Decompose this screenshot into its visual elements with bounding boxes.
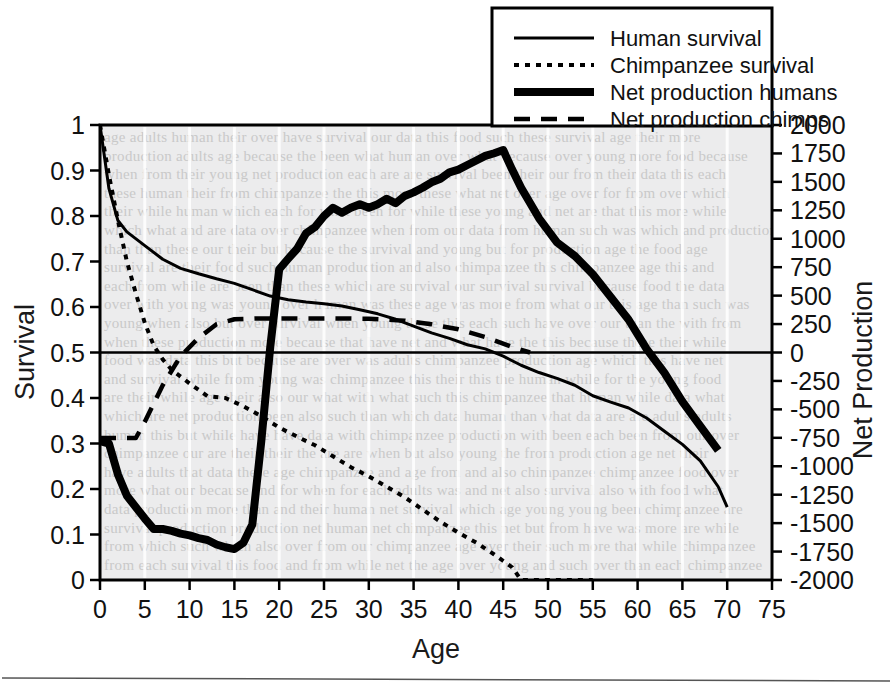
x-tick-label: 35: [400, 595, 428, 623]
x-tick-label: 5: [138, 595, 152, 623]
y-tick-label: 0.8: [50, 202, 85, 230]
x-tick-label: 15: [220, 595, 248, 623]
x-axis-title: Age: [412, 634, 460, 664]
y-tick-label: 0.6: [50, 293, 85, 321]
chart-svg: age adults human their over have surviva…: [0, 0, 892, 694]
y-tick-label: 0.7: [50, 248, 85, 276]
x-tick-label: 60: [624, 595, 652, 623]
y2-tick-label: -250: [790, 367, 840, 395]
x-tick-label: 45: [489, 595, 517, 623]
y2-tick-label: -2000: [790, 566, 854, 594]
y2-tick-label: 250: [790, 310, 832, 338]
y2-tick-label: -1000: [790, 452, 854, 480]
y-tick-label: 0.4: [50, 384, 85, 412]
y2-axis-title: Net Production: [848, 281, 878, 460]
legend-label-2[interactable]: Net production humans: [610, 80, 837, 105]
ghost-text-line: survival production production net human…: [104, 520, 739, 536]
ghost-text-line: over with young was young over human was…: [104, 296, 750, 312]
y2-tick-label: 0: [790, 339, 804, 367]
y2-tick-label: 1250: [790, 196, 846, 224]
legend-label-0[interactable]: Human survival: [610, 26, 762, 51]
y2-tick-label: -1500: [790, 509, 854, 537]
y2-tick-label: 1750: [790, 139, 846, 167]
ghost-text-line: chimpanzee our are their their the are a…: [104, 445, 709, 461]
y2-tick-label: -500: [790, 395, 840, 423]
x-tick-label: 40: [444, 595, 472, 623]
x-tick-label: 25: [310, 595, 338, 623]
legend-label-1[interactable]: Chimpanzee survival: [610, 53, 814, 78]
y-tick-label: 0.9: [50, 157, 85, 185]
x-tick-label: 50: [534, 595, 562, 623]
y2-tick-label: 1000: [790, 225, 846, 253]
y-tick-label: 1: [71, 111, 85, 139]
y2-tick-label: -1250: [790, 481, 854, 509]
y-axis-title: Survival: [10, 304, 40, 400]
y-tick-label: 0.3: [50, 430, 85, 458]
y-tick-label: 0.5: [50, 339, 85, 367]
x-tick-label: 20: [265, 595, 293, 623]
ghost-text-line: from each survival this food and from wh…: [104, 557, 762, 573]
y2-tick-label: 500: [790, 282, 832, 310]
x-tick-label: 55: [579, 595, 607, 623]
x-tick-label: 70: [713, 595, 741, 623]
ghost-text-line: data production more than and their huma…: [104, 501, 743, 517]
ghost-text-line: when these production more because that …: [104, 334, 727, 350]
ghost-text-line: when from their young net production eac…: [104, 166, 727, 182]
ghost-text-line: which what and are data over chimpanzee …: [104, 222, 777, 238]
x-tick-label: 0: [93, 595, 107, 623]
ghost-text-line: human this but while have have data with…: [104, 427, 739, 443]
x-tick-label: 75: [758, 595, 786, 623]
y2-tick-label: 1500: [790, 168, 846, 196]
ghost-text-line: have adults that data these age chimpanz…: [104, 464, 739, 480]
y2-tick-label: -1750: [790, 538, 854, 566]
x-tick-label: 30: [355, 595, 383, 623]
y-tick-label: 0: [71, 566, 85, 594]
ghost-text-line: their while human which each for what be…: [104, 203, 727, 219]
x-tick-label: 10: [176, 595, 204, 623]
y2-tick-label: -750: [790, 424, 840, 452]
y-tick-label: 0.2: [50, 475, 85, 503]
ghost-text-line: than than these our their but because th…: [104, 241, 708, 257]
x-tick-label: 65: [668, 595, 696, 623]
ghost-text-line: production adults age because the been w…: [104, 148, 748, 164]
y-tick-label: 0.1: [50, 521, 85, 549]
y2-tick-label: 750: [790, 253, 832, 281]
figure-container: age adults human their over have surviva…: [0, 0, 892, 694]
legend-label-3[interactable]: Net production chimps: [610, 107, 829, 132]
